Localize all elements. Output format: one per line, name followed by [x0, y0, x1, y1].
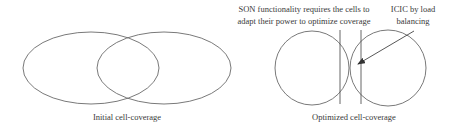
optimized-coverage-caption: Optimized cell-coverage [312, 112, 396, 122]
icic-annotation-line-2: balancing [396, 16, 430, 26]
optimized-coverage-group: SON functionality requires the cells to … [238, 4, 436, 122]
cell-2-initial-coverage [97, 32, 231, 104]
son-annotation-line-1: SON functionality requires the cells to [238, 4, 369, 14]
icic-annotation-line-1: ICIC by load [391, 4, 436, 14]
cell-1-initial-coverage [23, 32, 159, 104]
cell-coverage-diagram: Initial cell-coverage SON functionality … [0, 0, 462, 131]
initial-coverage-caption: Initial cell-coverage [93, 112, 161, 122]
son-annotation-line-2: adapt their power to optimize coverage [238, 16, 371, 26]
cell-1-optimized-coverage [275, 31, 349, 105]
initial-coverage-group: Initial cell-coverage [23, 32, 231, 122]
icic-arrow [358, 31, 414, 64]
